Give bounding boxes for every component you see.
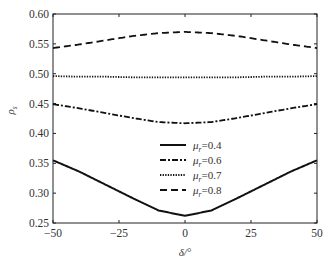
series-line-3 [53,76,317,77]
series-line-2 [53,104,317,123]
y-tick-label: 0.35 [29,157,49,169]
y-axis-label: ρs [4,106,19,115]
plot-frame [53,14,317,223]
x-tick-label: 50 [311,227,323,239]
x-tick-label: −25 [110,227,128,239]
legend-label: μr=0.4 [192,139,222,154]
x-tick-label: −50 [44,227,62,239]
y-tick-label: 0.40 [29,127,49,139]
line-chart: 0.250.300.350.400.450.500.550.60−50−2502… [0,0,330,263]
y-tick-label: 0.45 [29,98,49,110]
x-tick-label: 25 [245,227,257,239]
legend-label: μr=0.6 [192,154,222,169]
y-tick-label: 0.60 [29,8,49,20]
y-tick-label: 0.55 [29,38,49,50]
series-line-4 [53,32,317,48]
x-tick-label: 0 [182,227,188,239]
y-tick-label: 0.50 [29,68,49,80]
y-tick-label: 0.30 [29,187,49,199]
legend-label: μr=0.8 [192,184,222,199]
series-line-1 [53,160,317,216]
legend-label: μr=0.7 [192,169,222,184]
x-axis-label: δ/° [179,246,192,258]
